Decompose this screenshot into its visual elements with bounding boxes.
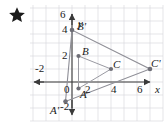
x-tick-6: 6 xyxy=(137,84,143,95)
figure-container: x y 6 4 2 -2 -2 0 2 4 6 A B C A' B' C' xyxy=(0,0,165,126)
x-tick-minus-2: -2 xyxy=(35,63,44,74)
point-B-prime xyxy=(70,28,75,33)
point-label-A-prime: A' xyxy=(50,105,59,116)
triangle-preimage xyxy=(79,56,112,89)
axes xyxy=(34,14,150,115)
point-label-C-prime: C' xyxy=(151,58,161,69)
point-label-B-prime: B' xyxy=(77,21,86,32)
point-label-B: B xyxy=(82,46,89,57)
y-tick-minus-2: -2 xyxy=(60,101,69,112)
y-tick-2: 2 xyxy=(62,50,68,61)
point-label-A: A xyxy=(80,89,87,100)
x-tick-0: 0 xyxy=(64,84,70,95)
x-axis-label: x xyxy=(155,84,160,95)
y-tick-4: 4 xyxy=(62,24,68,35)
x-tick-4: 4 xyxy=(111,84,117,95)
point-B xyxy=(76,54,80,58)
y-tick-6: 6 xyxy=(60,9,66,20)
point-label-C: C xyxy=(113,59,120,70)
